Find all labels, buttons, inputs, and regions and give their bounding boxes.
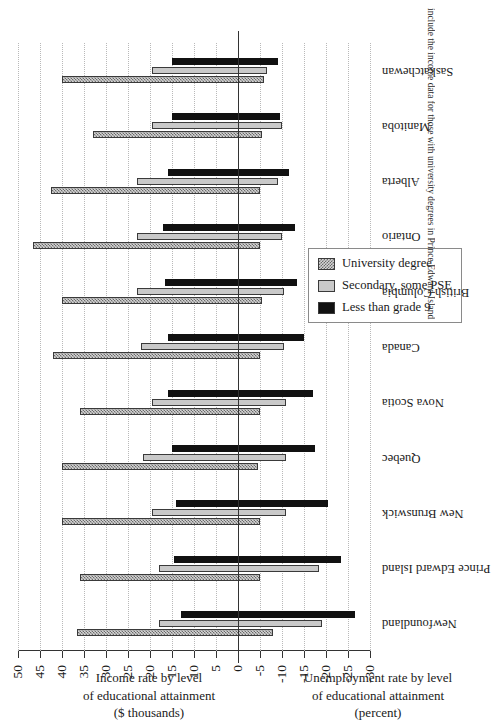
gridline [18, 43, 19, 651]
axis-tick [18, 651, 19, 658]
bar-uni[interactable] [77, 629, 273, 636]
axis-tick-label: -10 [274, 665, 290, 683]
axis-tick-label: 50 [10, 665, 26, 679]
bar-low[interactable] [176, 500, 328, 507]
figure-caption: include the income data for those with u… [419, 0, 435, 709]
axis-tick [348, 651, 349, 658]
axis-tick [62, 651, 63, 658]
axis-tick [128, 651, 129, 658]
legend-swatch-icon [318, 257, 335, 269]
axis-tick [216, 651, 217, 658]
gridline [84, 43, 85, 651]
bar-low[interactable] [174, 556, 341, 563]
bar-uni[interactable] [62, 518, 260, 525]
axis-tick-label: -30 [362, 665, 378, 683]
axis-tick [260, 651, 261, 658]
axis-tick [84, 651, 85, 658]
bar-uni[interactable] [62, 463, 258, 470]
bar-uni[interactable] [62, 76, 264, 83]
category-label: Canada [382, 340, 420, 355]
bar-sec[interactable] [137, 233, 282, 240]
plot-area: -30-25-20-15-10-505101520253035404550 [18, 43, 370, 651]
bar-low[interactable] [181, 611, 355, 618]
gridline [348, 43, 349, 651]
bar-low[interactable] [168, 390, 313, 397]
legend-label: Less than grade 9 [342, 300, 430, 315]
axis-tick [40, 651, 41, 658]
axis-tick-label: 30 [98, 665, 114, 679]
axis-tick [106, 651, 107, 658]
bar-uni[interactable] [93, 131, 262, 138]
axis-tick-label: 40 [54, 665, 70, 679]
bar-low[interactable] [172, 58, 278, 65]
bar-uni[interactable] [33, 242, 260, 249]
bar-uni[interactable] [80, 574, 260, 581]
axis-tick-label: -15 [296, 665, 312, 683]
axis-tick-label: 45 [32, 665, 48, 679]
bar-sec[interactable] [152, 122, 282, 129]
bar-low[interactable] [172, 445, 315, 452]
gridline [370, 43, 371, 651]
legend-swatch-icon [318, 301, 335, 313]
bar-uni[interactable] [80, 408, 260, 415]
axis-tick-label: -25 [340, 665, 356, 683]
axis-tick-label: 25 [120, 665, 136, 679]
bar-low[interactable] [165, 279, 297, 286]
bar-sec[interactable] [159, 565, 320, 572]
gridline [40, 43, 41, 651]
bar-uni[interactable] [51, 187, 260, 194]
gridline [62, 43, 63, 651]
axis-tick [304, 651, 305, 658]
bar-sec[interactable] [152, 399, 286, 406]
category-label: Alberta [382, 174, 420, 189]
figure-caption-text: include the income data for those with u… [426, 8, 435, 319]
bar-sec[interactable] [137, 288, 284, 295]
axis-tick-label: 5 [208, 665, 224, 672]
category-label: Quebec [382, 450, 420, 465]
axis-tick-label: 35 [76, 665, 92, 679]
bar-sec[interactable] [152, 67, 266, 74]
bar-uni[interactable] [62, 297, 262, 304]
bar-sec[interactable] [143, 454, 286, 461]
axis-tick-label: -20 [318, 665, 334, 683]
axis-tick-label: 10 [186, 665, 202, 679]
bar-sec[interactable] [137, 178, 278, 185]
bar-sec[interactable] [141, 344, 284, 351]
axis-tick [172, 651, 173, 658]
axis-tick-label: 15 [164, 665, 180, 679]
axis-tick [150, 651, 151, 658]
category-label: Ontario [382, 229, 420, 244]
bar-uni[interactable] [53, 353, 260, 360]
axis-tick [370, 651, 371, 658]
bar-sec[interactable] [152, 509, 286, 516]
axis-tick [194, 651, 195, 658]
axis-tick-label: 0 [230, 665, 246, 672]
category-label: Saskatchewan [382, 63, 453, 78]
bar-low[interactable] [163, 224, 295, 231]
bar-low[interactable] [172, 113, 280, 120]
bar-sec[interactable] [159, 620, 322, 627]
axis-tick-label: -5 [252, 665, 268, 676]
bar-low[interactable] [168, 335, 304, 342]
legend-swatch-icon [318, 279, 335, 291]
axis-tick [326, 651, 327, 658]
category-label: Prince Edward Island [382, 561, 490, 576]
axis-tick [282, 651, 283, 658]
zero-axis-line [238, 31, 239, 663]
bar-low[interactable] [168, 169, 289, 176]
axis-tick-label: 20 [142, 665, 158, 679]
